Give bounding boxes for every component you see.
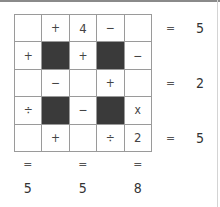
grid-cell-r4c2[interactable]	[70, 125, 97, 152]
col-result-4: 8	[124, 180, 152, 196]
col-equals-2: =	[69, 157, 97, 171]
grid-cell-r2c3: +	[97, 70, 124, 97]
grid-cell-r4c3: ÷	[97, 125, 124, 152]
equals-sign: =	[166, 21, 175, 35]
grid-cell-r3c2: −	[70, 97, 97, 124]
grid-cell-r2c0[interactable]	[15, 70, 42, 97]
grid-cell-r3c4: x	[125, 97, 152, 124]
grid-cell-r2c2[interactable]	[70, 70, 97, 97]
grid-cell-r2c1: −	[42, 70, 69, 97]
grid-cell-r0c3: −	[97, 15, 124, 42]
row-result-4: = 5	[152, 124, 220, 152]
row-result-value: 5	[196, 130, 204, 146]
col-result-2: 5	[69, 180, 97, 196]
grid-cell-r1c2: +	[70, 42, 97, 69]
equals-sign: =	[166, 76, 175, 90]
grid-cell-r2c4[interactable]	[125, 70, 152, 97]
row-result-0: = 5	[152, 14, 220, 42]
grid-cell-blocked	[97, 42, 124, 69]
row-result-value: 5	[196, 20, 204, 36]
puzzle-grid: + 4 − + + − − + ÷ − x + ÷ 2	[14, 14, 152, 152]
row-result-2: = 2	[152, 69, 220, 97]
equals-sign: =	[166, 131, 175, 145]
grid-cell-r1c4: −	[125, 42, 152, 69]
grid-cell-r4c4[interactable]: 2	[125, 125, 152, 152]
row-result-value: 2	[196, 75, 204, 91]
grid-cell-r0c0[interactable]	[15, 15, 42, 42]
top-border	[0, 0, 220, 2]
grid-cell-r0c4[interactable]	[125, 15, 152, 42]
grid-cell-blocked	[42, 42, 69, 69]
col-result-0: 5	[14, 180, 42, 196]
col-equals-0: =	[14, 157, 42, 171]
grid-cell-r4c1: +	[42, 125, 69, 152]
grid-cell-r3c0: ÷	[15, 97, 42, 124]
grid-cell-blocked	[42, 97, 69, 124]
grid-cell-blocked	[97, 97, 124, 124]
grid-cell-r1c0: +	[15, 42, 42, 69]
grid-cell-r0c2[interactable]: 4	[70, 15, 97, 42]
grid-cell-r4c0[interactable]	[15, 125, 42, 152]
col-equals-4: =	[124, 157, 152, 171]
grid-cell-r0c1: +	[42, 15, 69, 42]
